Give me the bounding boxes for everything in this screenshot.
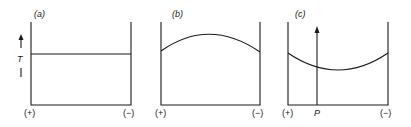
panel-c-profile-concave xyxy=(288,53,388,70)
panel-c: (c) (+) P (−) xyxy=(282,9,391,118)
panel-c-left-label: (+) xyxy=(282,108,293,118)
diagram-canvas: (a) T (+) (−) (b) (+) (−) (c) (+) P (−) xyxy=(0,0,411,127)
panel-b-left-label: (+) xyxy=(155,108,166,118)
panel-c-marker-label: P xyxy=(314,108,320,118)
p-up-arrow-icon xyxy=(315,26,320,33)
panel-c-right-label: (−) xyxy=(380,108,391,118)
panel-c-box xyxy=(288,22,388,105)
panel-b-label: (b) xyxy=(172,9,183,19)
temperature-axis-label: T xyxy=(17,54,24,64)
panel-a-right-label: (−) xyxy=(123,108,134,118)
panel-b-profile-convex xyxy=(161,34,260,52)
panel-c-label: (c) xyxy=(295,9,306,19)
panel-a-label: (a) xyxy=(34,9,45,19)
panel-b: (b) (+) (−) xyxy=(155,9,263,118)
t-arrowhead-icon xyxy=(19,34,24,40)
panel-a-box xyxy=(31,22,131,105)
panel-a: (a) T (+) (−) xyxy=(17,9,134,118)
panel-a-left-label: (+) xyxy=(24,108,35,118)
panel-b-right-label: (−) xyxy=(252,108,263,118)
